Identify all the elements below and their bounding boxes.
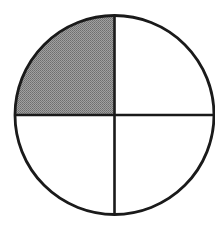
- fraction-diagram: [0, 0, 215, 237]
- fraction-circle-figure: [0, 0, 215, 237]
